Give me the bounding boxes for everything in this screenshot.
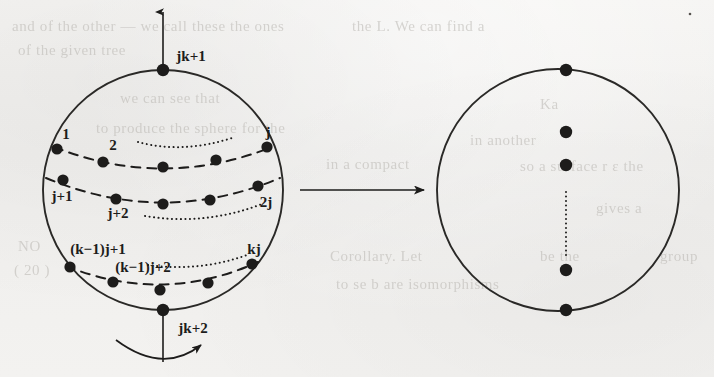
row-k-dot-3 <box>154 284 165 295</box>
left-circle-group: 1 2 j j+1 j+2 2j (k−1)j+1 (k−1)j+2 kj jk… <box>43 12 283 362</box>
row-2-second-label: j+2 <box>106 205 128 221</box>
north-pole-dot <box>157 64 169 76</box>
row-1-dot-4 <box>210 154 221 165</box>
row-2-dot-3 <box>157 198 168 209</box>
row-1-dotted-ellipsis <box>138 138 232 147</box>
row-1-first-label: 1 <box>62 126 70 142</box>
mathematical-figure: 1 2 j j+1 j+2 2j (k−1)j+1 (k−1)j+2 kj jk… <box>0 0 714 377</box>
target-dot-4 <box>560 264 572 276</box>
target-dot-3 <box>560 159 572 171</box>
row-2-first-label: j+1 <box>50 188 72 204</box>
row-1-dot-1 <box>51 143 62 154</box>
row-2-dot-2 <box>110 193 121 204</box>
right-circle-group <box>437 64 679 316</box>
row-2-dot-5 <box>252 180 263 191</box>
row-2-last-label: 2j <box>260 194 273 210</box>
target-dot-bottom <box>560 304 572 316</box>
row-1-second-label: 2 <box>109 137 117 153</box>
target-circle-outline <box>437 69 679 311</box>
row-2-dot-4 <box>204 194 215 205</box>
row-k-first-label: (k−1)j+1 <box>70 241 125 258</box>
target-dot-top <box>560 64 572 76</box>
north-pole-label: jk+1 <box>175 48 205 64</box>
row-1-dot-5 <box>261 141 272 152</box>
row-1-last-label: j <box>265 124 271 140</box>
row-k-last-label: kj <box>247 241 260 257</box>
row-k-dot-4 <box>202 277 213 288</box>
row-1-dot-3 <box>157 161 168 172</box>
row-k-second-label: (k−1)j+2 <box>115 259 170 276</box>
rotation-arrow <box>116 340 201 359</box>
south-pole-label: jk+2 <box>177 320 207 336</box>
scan-speck <box>689 13 692 16</box>
row-k-dot-1 <box>64 261 75 272</box>
target-dot-2 <box>560 126 572 138</box>
row-1-dot-2 <box>97 156 108 167</box>
row-k-dot-2 <box>107 276 118 287</box>
row-2-dot-1 <box>57 174 68 185</box>
row-k-dot-5 <box>246 258 257 269</box>
